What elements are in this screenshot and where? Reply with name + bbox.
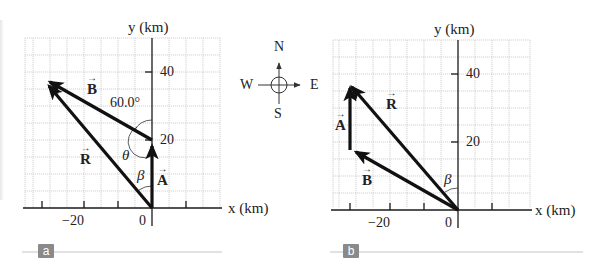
panel-b-vector-r-label: →R [386, 97, 397, 112]
panel-a-vector-r-label: →R [80, 152, 91, 167]
panel-a-beta-label: β [137, 168, 144, 183]
panel-a-tag: a [38, 244, 54, 258]
panel-a-theta-label: θ [122, 148, 129, 163]
panel-b-y-tick-20: 20 [466, 135, 480, 149]
panel-b-y-axis-label: y (km) [434, 22, 474, 37]
panel-a-vector-a-label: →A [157, 173, 168, 188]
panel-a-axes [23, 38, 222, 226]
vector-diagram [0, 0, 600, 270]
panel-a-y-tick-40: 40 [160, 65, 174, 79]
panel-b-vector-b-label: →B [362, 173, 372, 188]
panel-b-x-axis-label: x (km) [535, 203, 575, 218]
vector-r-panel-b [352, 87, 458, 210]
panel-a-y-axis-label: y (km) [128, 20, 168, 35]
panel-b-y-tick-40: 40 [466, 67, 480, 81]
panel-a-y-tick-20: 20 [160, 133, 174, 147]
compass-east-label: E [310, 78, 319, 92]
compass-rose [258, 63, 300, 104]
compass-north-label: N [274, 40, 284, 54]
panel-b-x-tick-neg20: −20 [368, 216, 390, 230]
panel-a-angle-60-label: 60.0° [110, 96, 140, 110]
panel-b-vectors [350, 87, 458, 210]
panel-a-x-tick-0: 0 [139, 214, 146, 228]
compass-south-label: S [274, 107, 282, 121]
panel-a-x-axis-label: x (km) [228, 201, 268, 216]
panel-b-angle-arcs [445, 188, 458, 192]
compass-west-label: W [240, 78, 253, 92]
panel-a-vector-b-label: →B [87, 82, 97, 97]
panel-b-vector-a-label: →A [335, 118, 346, 133]
panel-b-tag: b [343, 244, 359, 258]
panel-b-beta-label: β [444, 172, 451, 187]
panel-a-x-tick-neg20: −20 [62, 214, 84, 228]
panel-b-x-tick-0: 0 [445, 216, 452, 230]
panel-b-axes [331, 40, 532, 228]
